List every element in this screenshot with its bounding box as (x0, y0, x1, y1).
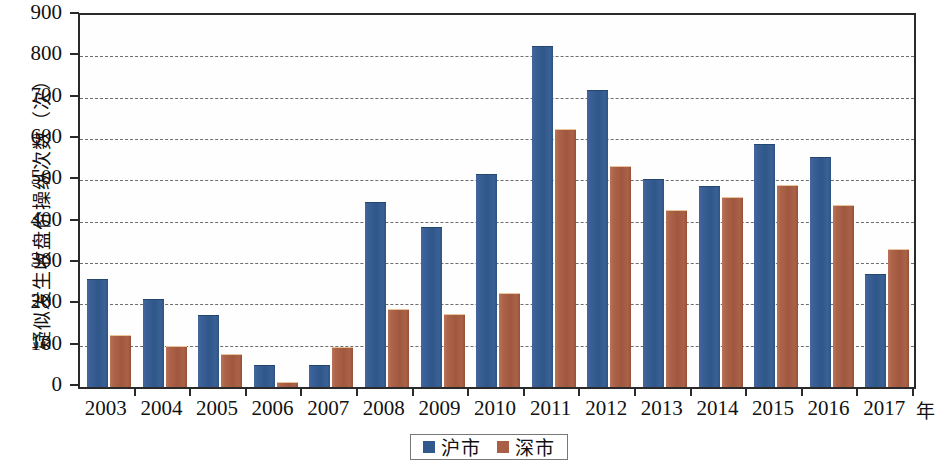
bar-shanghai (365, 202, 386, 387)
bar-shanghai (143, 299, 164, 387)
x-axis-unit-label: 年 (916, 396, 935, 423)
bar-group (858, 15, 914, 387)
y-axis-tick-label: 0 (12, 374, 62, 395)
x-axis-tick (634, 387, 636, 396)
bar-shanghai (532, 46, 553, 387)
x-axis-tick (578, 387, 580, 396)
y-axis-tick-label: 900 (12, 2, 62, 23)
y-axis-tick-label: 600 (12, 126, 62, 147)
bar-shenzhen (610, 166, 631, 387)
bar-shenzhen (388, 309, 409, 387)
bar-group (247, 15, 303, 387)
y-axis-tick-label: 300 (12, 250, 62, 271)
y-axis-tick-label: 100 (12, 333, 62, 354)
x-axis-tick-label: 2017 (847, 396, 921, 421)
x-axis-tick (467, 387, 469, 396)
bar-shanghai (309, 365, 330, 387)
bar-group (80, 15, 136, 387)
x-axis-tick (523, 387, 525, 396)
legend-label: 深市 (515, 433, 555, 460)
bar-group (302, 15, 358, 387)
bar-shanghai (476, 174, 497, 387)
bar-group (636, 15, 692, 387)
bar-shanghai (810, 157, 831, 387)
bar-shenzhen (221, 354, 242, 387)
bar-shenzhen (166, 346, 187, 387)
bar-chart: 疑似发生收盘价操纵次数（次） 0100200300400500600700800… (0, 0, 939, 465)
bar-shanghai (254, 365, 275, 387)
bar-shenzhen (777, 185, 798, 387)
y-axis-tick-label: 400 (12, 209, 62, 230)
x-axis-tick (856, 387, 858, 396)
bar-group (580, 15, 636, 387)
legend-swatch-icon (423, 441, 435, 453)
y-axis-tick-label: 800 (12, 43, 62, 64)
bar-shenzhen (833, 205, 854, 387)
x-axis-tick (189, 387, 191, 396)
bar-shanghai (587, 90, 608, 387)
x-axis-tick (356, 387, 358, 396)
x-axis-tick (300, 387, 302, 396)
bar-shenzhen (110, 335, 131, 387)
bar-shanghai (87, 279, 108, 387)
bar-group (136, 15, 192, 387)
bar-shenzhen (332, 347, 353, 387)
bar-shanghai (643, 179, 664, 387)
bar-series-container (80, 15, 914, 387)
x-axis-tick (801, 387, 803, 396)
legend-item-shanghai: 沪市 (423, 433, 481, 460)
bar-group (469, 15, 525, 387)
bar-shenzhen (722, 197, 743, 387)
x-axis-tick (245, 387, 247, 396)
bar-group (525, 15, 581, 387)
bar-group (692, 15, 748, 387)
x-axis-tick (412, 387, 414, 396)
y-axis-tick-label: 500 (12, 167, 62, 188)
bar-shanghai (754, 144, 775, 387)
bar-shenzhen (666, 210, 687, 387)
x-axis-tick (745, 387, 747, 396)
bar-shanghai (699, 186, 720, 387)
bar-group (803, 15, 859, 387)
legend-item-shenzhen: 深市 (497, 433, 555, 460)
bar-group (747, 15, 803, 387)
bar-shenzhen (888, 249, 909, 387)
plot-area (78, 13, 916, 389)
bar-shenzhen (499, 293, 520, 387)
bar-shanghai (421, 227, 442, 387)
bar-shanghai (198, 315, 219, 387)
y-axis-tick-label: 700 (12, 85, 62, 106)
bar-shenzhen (277, 382, 298, 387)
bar-shenzhen (444, 314, 465, 387)
legend-swatch-icon (497, 441, 509, 453)
legend-label: 沪市 (441, 433, 481, 460)
x-axis-tick (912, 387, 914, 396)
x-axis-tick (690, 387, 692, 396)
x-axis-tick (134, 387, 136, 396)
chart-legend: 沪市 深市 (410, 434, 568, 460)
bar-group (414, 15, 470, 387)
bar-shanghai (865, 274, 886, 387)
bar-group (358, 15, 414, 387)
bar-shenzhen (555, 129, 576, 387)
bar-group (191, 15, 247, 387)
y-axis-tick-label: 200 (12, 291, 62, 312)
